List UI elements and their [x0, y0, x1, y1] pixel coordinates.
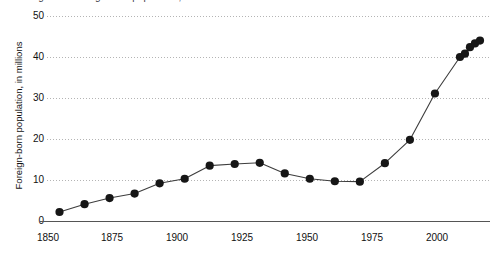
chart-container: Figure 1. Foreign-born population, in mi…	[0, 0, 496, 255]
data-point-1910	[206, 162, 214, 170]
data-point-1930	[256, 159, 264, 167]
data-point-1950	[306, 175, 314, 183]
data-point-1970	[356, 178, 364, 186]
data-point-1880	[131, 189, 139, 197]
data-point-1920	[231, 160, 239, 168]
data-point-1900	[181, 175, 189, 183]
data-point-1980	[381, 159, 389, 167]
data-point-2000	[431, 89, 439, 97]
data-point-2012	[461, 50, 469, 58]
data-point-2018	[476, 37, 484, 45]
data-point-1850	[55, 208, 63, 216]
data-line	[60, 41, 480, 212]
data-point-1860	[80, 200, 88, 208]
plot-area	[0, 0, 496, 255]
gridlines-group	[47, 17, 490, 181]
data-point-markers	[55, 37, 484, 217]
data-point-1890	[156, 179, 164, 187]
data-point-1990	[406, 136, 414, 144]
data-point-1870	[105, 194, 113, 202]
data-point-1940	[281, 169, 289, 177]
data-point-1960	[331, 177, 339, 185]
